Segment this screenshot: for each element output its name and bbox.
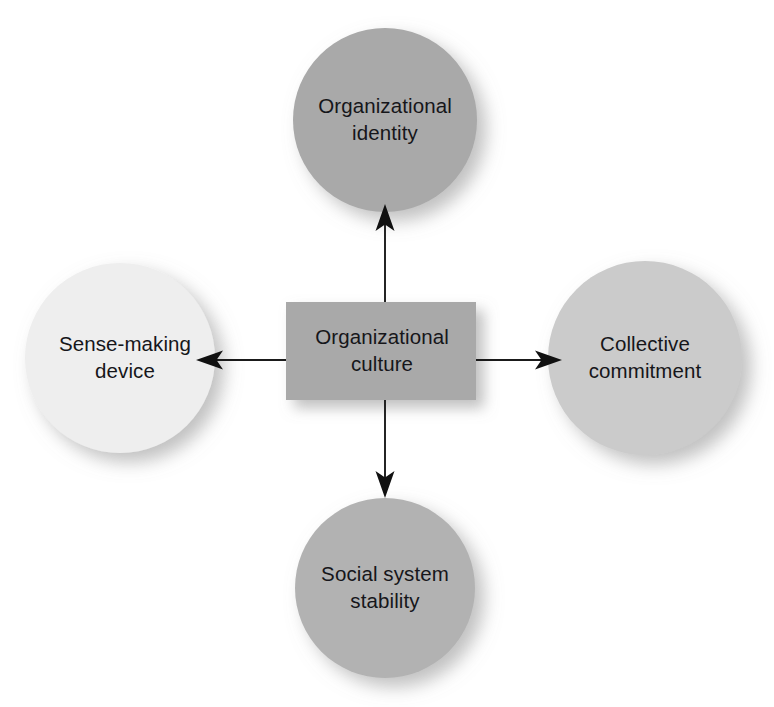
diagram-canvas: Organizational identity Collective commi… xyxy=(0,0,774,707)
node-shape-sense-making-device[interactable] xyxy=(25,263,215,453)
arrow-to-social-system-stability xyxy=(376,400,395,498)
diagram-graphics xyxy=(0,0,774,707)
node-shape-organizational-identity[interactable] xyxy=(293,28,477,212)
node-shape-collective-commitment[interactable] xyxy=(548,261,742,455)
arrow-to-organizational-identity xyxy=(376,204,395,302)
node-shape-social-system-stability[interactable] xyxy=(295,498,475,678)
node-shape-organizational-culture[interactable] xyxy=(286,302,476,400)
